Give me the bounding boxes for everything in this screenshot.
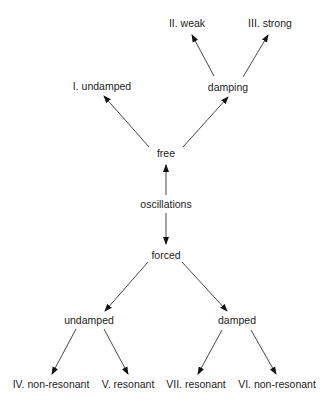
node-i-undamped: I. undamped: [73, 81, 131, 92]
node-forced: forced: [151, 250, 180, 261]
node-undamped: undamped: [64, 315, 114, 326]
node-free: free: [157, 148, 175, 159]
node-oscillations: oscillations: [140, 199, 191, 210]
arrow-forced-to-damped: [182, 262, 227, 311]
node-damped: damped: [218, 315, 256, 326]
node-iv-non-resonant: IV. non-resonant: [13, 379, 90, 390]
node-damping: damping: [208, 82, 248, 93]
arrow-damped-to-vi_non_resonant: [251, 330, 276, 374]
arrow-damped-to-vii_resonant: [198, 330, 222, 374]
node-iii-strong: III. strong: [248, 18, 292, 29]
node-vii-resonant: VII. resonant: [166, 379, 226, 390]
node-v-resonant: V. resonant: [102, 379, 155, 390]
node-ii-weak: II. weak: [169, 18, 205, 29]
arrow-free-to-damping: [183, 97, 228, 147]
arrow-undamped-to-iv_non_resonant: [52, 329, 76, 374]
node-vi-non-resonant: VI. non-resonant: [238, 379, 316, 390]
oscillations-tree-diagram: oscillations free forced I. undamped dam…: [0, 0, 330, 405]
arrow-damping-to-iii_strong: [243, 35, 268, 77]
arrow-damping-to-ii_weak: [192, 35, 214, 76]
arrow-free-to-i_undamped: [104, 96, 149, 147]
arrow-forced-to-undamped: [105, 262, 148, 311]
arrow-undamped-to-v_resonant: [104, 329, 128, 374]
